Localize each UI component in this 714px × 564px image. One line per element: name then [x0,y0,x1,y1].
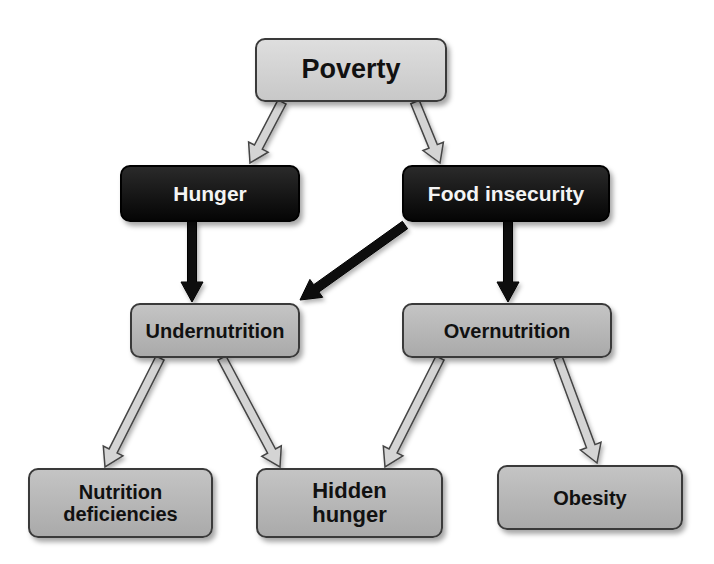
node-overnutrition: Overnutrition [402,303,612,358]
arrow-undernutrition-to-nutrition-deficiencies [103,356,164,467]
node-label: Nutrition deficiencies [63,481,178,525]
arrow-food-insecurity-to-overnutrition [497,222,519,302]
node-label: Undernutrition [146,320,285,342]
node-obesity: Obesity [497,465,683,530]
node-label: Poverty [301,55,400,85]
node-label: Hunger [173,182,247,205]
node-nutrition-deficiencies: Nutrition deficiencies [28,468,213,538]
node-label: Food insecurity [428,182,584,205]
node-food-insecurity: Food insecurity [402,165,610,222]
arrow-hunger-to-undernutrition [181,222,203,302]
node-label: Hidden hunger [312,479,387,527]
arrow-poverty-to-hunger [249,100,286,163]
arrow-food-insecurity-to-undernutrition [300,221,408,300]
node-poverty: Poverty [255,38,447,102]
node-hunger: Hunger [120,165,300,222]
node-label: Overnutrition [444,320,571,342]
node-undernutrition: Undernutrition [130,303,300,358]
arrow-undernutrition-to-hidden-hunger [218,356,281,467]
arrow-poverty-to-food-insecurity [411,100,444,163]
arrow-overnutrition-to-obesity [554,356,601,463]
node-hidden-hunger: Hidden hunger [256,468,443,538]
node-label: Obesity [553,487,626,509]
arrow-overnutrition-to-hidden-hunger [383,356,444,467]
